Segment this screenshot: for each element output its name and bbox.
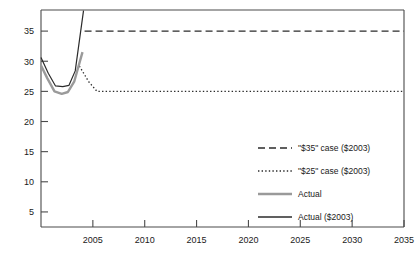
series-line — [41, 52, 82, 94]
legend-label: Actual — [298, 189, 322, 199]
legend-label: Actual ($2003) — [298, 212, 353, 222]
y-tick-label: 20 — [24, 117, 34, 127]
data-series-group — [41, 11, 404, 94]
x-tick-label: 2005 — [83, 235, 103, 245]
y-tick-label: 5 — [29, 207, 34, 217]
line-chart: 5101520253035 20052010201520202025203020… — [0, 0, 419, 265]
x-tick-label: 2020 — [238, 235, 258, 245]
series-line — [79, 66, 404, 91]
x-tick-label: 2035 — [394, 235, 414, 245]
x-tick-label: 2010 — [135, 235, 155, 245]
legend-label: "$35" case ($2003) — [298, 143, 370, 153]
plot-frame — [41, 10, 404, 227]
y-tick-label: 35 — [24, 26, 34, 36]
y-tick-group: 5101520253035 — [24, 26, 48, 217]
x-tick-label: 2025 — [290, 235, 310, 245]
y-tick-label: 25 — [24, 87, 34, 97]
y-tick-label: 30 — [24, 57, 34, 67]
chart-container: 5101520253035 20052010201520202025203020… — [0, 0, 419, 265]
y-tick-label: 10 — [24, 177, 34, 187]
x-tick-label: 2015 — [187, 235, 207, 245]
y-tick-label: 15 — [24, 147, 34, 157]
x-tick-group: 2005201020152020202520302035 — [83, 220, 414, 245]
legend-label: "$25" case ($2003) — [298, 166, 370, 176]
chart-legend: "$35" case ($2003)"$25" case ($2003)Actu… — [258, 143, 370, 222]
x-tick-label: 2030 — [342, 235, 362, 245]
